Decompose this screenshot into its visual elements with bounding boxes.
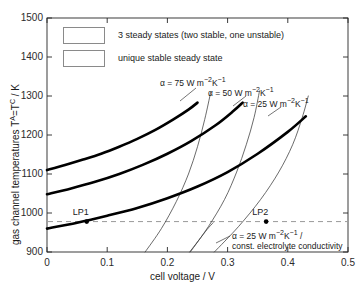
- annotation-alpha-25-const-line1: α = 25 W m−2K−1 /: [232, 231, 302, 241]
- annotation-alpha-25c-tail: /: [298, 231, 303, 241]
- annotation-alpha-25-sup1: −2: [287, 97, 295, 104]
- y-tick-label-5: 1400: [14, 51, 43, 62]
- annotation-alpha-25c-sup2: −1: [290, 229, 298, 236]
- chart-figure: gas channel temperatures TA=TC / K cell …: [0, 0, 362, 294]
- annotation-alpha-50-lead: α = 50 W m: [208, 88, 252, 98]
- annotation-alpha-75-sup1: −2: [204, 76, 212, 83]
- annotation-alpha-25-sup2: −1: [301, 97, 309, 104]
- y-tick-label-3: 1200: [14, 129, 43, 140]
- annotation-alpha-75: α = 75 W m−2K−1: [160, 78, 226, 88]
- marker-label-lp2: LP2: [252, 207, 268, 217]
- x-tick-label-0: 0: [37, 257, 57, 268]
- legend-swatch-unique-steady-state: [63, 50, 105, 67]
- y-tick-label-6: 1500: [14, 12, 43, 23]
- annotation-alpha-50-sup1: −2: [252, 86, 260, 93]
- x-tick-label-5: 0.5: [338, 257, 358, 268]
- y-tick-label-2: 1100: [14, 168, 43, 179]
- legend-label-unique-steady-state: unique stable steady state: [118, 53, 223, 63]
- y-axis-title-mid: =T: [10, 104, 21, 116]
- y-axis-title: gas channel temperatures TA=TC / K: [10, 84, 21, 245]
- annotation-alpha-25: α = 25 W m−2K−1: [243, 99, 309, 109]
- annotation-alpha-75-lead: α = 75 W m: [160, 78, 204, 88]
- legend-label-3-steady-states: 3 steady states (two stable, one unstabl…: [118, 30, 284, 40]
- annotation-alpha-50-sup2: −1: [266, 86, 274, 93]
- x-tick-label-3: 0.3: [218, 257, 238, 268]
- y-tick-label-1: 1000: [14, 207, 43, 218]
- y-tick-label-4: 1300: [14, 90, 43, 101]
- marker-label-lp1: LP1: [73, 207, 89, 217]
- marker-lp2: [264, 219, 269, 224]
- legend-swatch-3-steady-states: [63, 27, 105, 44]
- annotation-alpha-25-lead: α = 25 W m: [243, 99, 287, 109]
- x-tick-label-4: 0.4: [278, 257, 298, 268]
- annotation-alpha-25-const-line2: const. electrolyte conductivity: [232, 241, 343, 251]
- y-tick-label-0: 900: [14, 246, 43, 257]
- x-tick-label-2: 0.2: [157, 257, 177, 268]
- y-axis-title-sup-a: A: [9, 116, 16, 121]
- annotation-alpha-75-sup2: −1: [218, 76, 226, 83]
- marker-lp1: [84, 219, 89, 224]
- annotation-alpha-50: α = 50 W m−2K−1: [208, 88, 274, 98]
- annotation-alpha-25c-lead: α = 25 W m: [232, 231, 276, 241]
- x-axis-title: cell voltage / V: [150, 271, 215, 282]
- x-tick-label-1: 0.1: [97, 257, 117, 268]
- annotation-alpha-25c-sup1: −2: [276, 229, 284, 236]
